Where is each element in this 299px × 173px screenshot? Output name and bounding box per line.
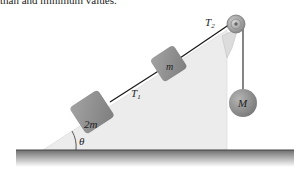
hanging-mass-label: M	[237, 97, 248, 109]
tension-t2-label: T2	[205, 16, 215, 30]
ground	[16, 150, 294, 167]
pulley	[227, 15, 245, 33]
pulley-incline-diagram: θ 2m m M T2 T1	[0, 0, 299, 173]
angle-label: θ	[79, 135, 85, 147]
block-m-label: m	[166, 61, 173, 72]
block-2m-label: 2m	[84, 118, 98, 130]
